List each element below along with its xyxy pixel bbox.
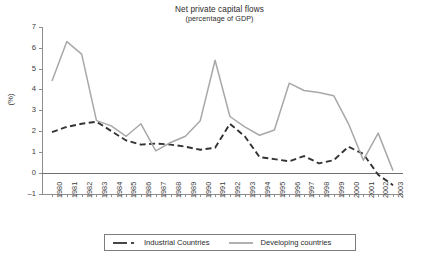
legend-swatch-solid-icon	[229, 240, 255, 246]
legend-item-developing-countries: Developing countries	[229, 238, 331, 247]
chart-container: Net private capital flows (percentage of…	[0, 0, 439, 262]
legend-swatch-dashed-icon	[113, 240, 139, 246]
legend-item-industrial-countries: Industrial Countries	[113, 238, 209, 247]
series-line-developing-countries	[52, 42, 393, 171]
chart-legend: Industrial Countries Developing countrie…	[104, 234, 356, 251]
legend-label-industrial-countries: Industrial Countries	[144, 238, 209, 247]
legend-label-developing-countries: Developing countries	[260, 238, 331, 247]
series-plot-area	[0, 0, 439, 262]
series-line-industrial-countries	[52, 122, 393, 185]
